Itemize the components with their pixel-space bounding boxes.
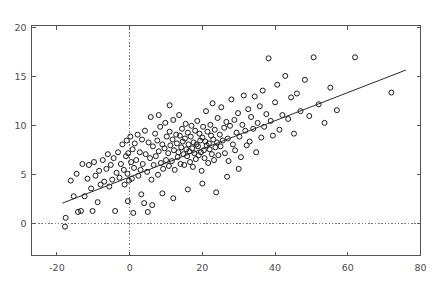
x-tick-label: 0 [127,262,133,273]
y-tick-label: 0 [20,218,26,229]
x-tick-label: 60 [342,262,354,273]
x-tick-label: 40 [269,262,281,273]
y-tick-label: 15 [14,71,26,82]
x-tick-label: -20 [49,262,65,273]
x-tick-label: 20 [196,262,208,273]
x-tick-label: 80 [414,262,426,273]
y-tick-label: 5 [20,169,26,180]
plot-canvas: -20020406080 05101520 [0,0,436,292]
y-tick-label: 10 [14,120,26,131]
scatter-plot-figure: -20020406080 05101520 [0,0,436,292]
y-tick-label: 20 [14,22,26,33]
